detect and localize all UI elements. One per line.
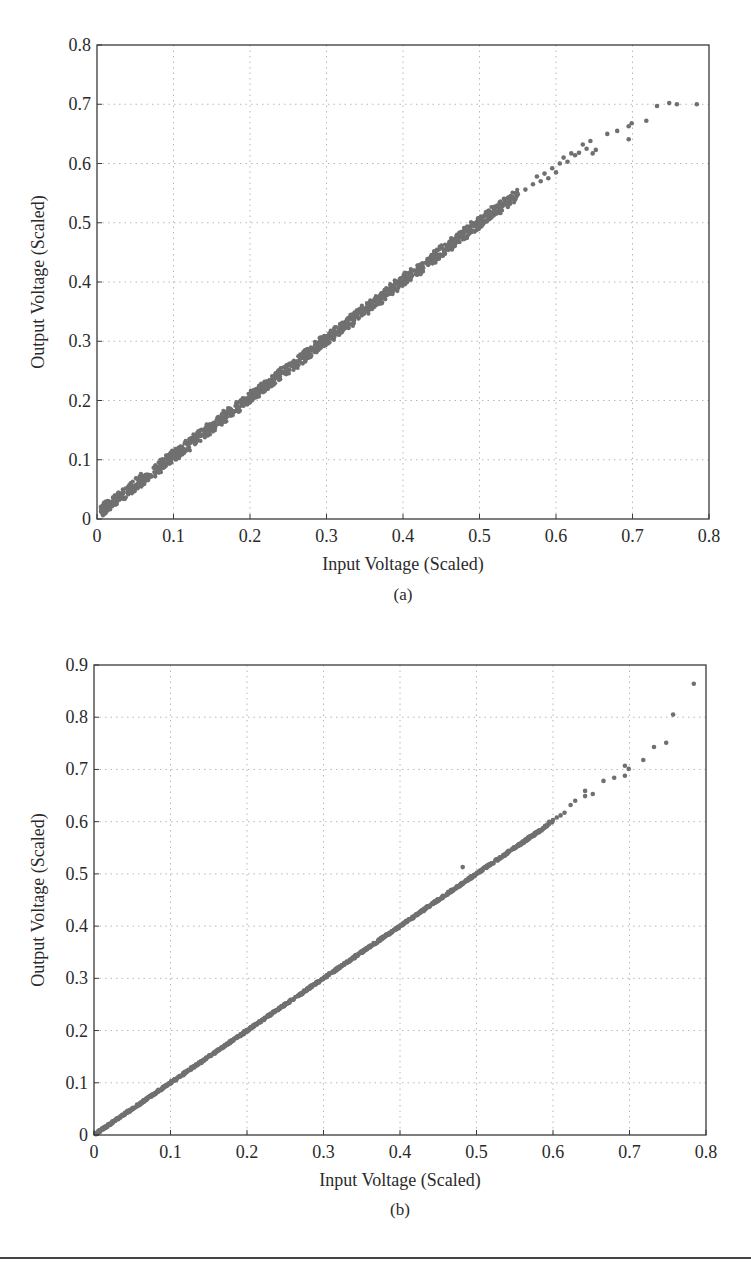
y-tick-label: 0 bbox=[79, 1125, 88, 1145]
data-point bbox=[366, 946, 370, 950]
data-point bbox=[318, 335, 322, 339]
data-point bbox=[309, 355, 313, 359]
x-tick-label: 0.3 bbox=[315, 526, 338, 546]
page-divider bbox=[0, 1257, 751, 1259]
data-point bbox=[285, 366, 289, 370]
data-point bbox=[266, 1015, 270, 1019]
data-point bbox=[210, 1053, 214, 1057]
data-point bbox=[172, 1078, 176, 1082]
data-point bbox=[198, 439, 202, 443]
data-point bbox=[251, 1023, 255, 1027]
data-point bbox=[398, 923, 402, 927]
data-point bbox=[102, 512, 106, 516]
data-point bbox=[538, 179, 543, 184]
y-tick-label: 0.7 bbox=[69, 94, 92, 114]
data-point bbox=[382, 935, 386, 939]
x-axis-label-b: Input Voltage (Scaled) bbox=[319, 1170, 480, 1191]
y-tick-label: 0.9 bbox=[66, 655, 89, 675]
data-point bbox=[583, 789, 588, 794]
data-point bbox=[484, 864, 488, 868]
data-point bbox=[561, 155, 566, 160]
data-point bbox=[142, 1098, 146, 1102]
data-point bbox=[583, 794, 588, 799]
data-point bbox=[187, 446, 191, 450]
data-point bbox=[581, 142, 586, 147]
data-point bbox=[480, 868, 484, 872]
data-point bbox=[432, 258, 436, 262]
x-tick-label: 0.7 bbox=[621, 526, 644, 546]
data-point bbox=[217, 422, 221, 426]
data-point bbox=[270, 383, 274, 387]
data-point bbox=[301, 349, 305, 353]
data-point bbox=[235, 404, 239, 408]
data-point bbox=[331, 970, 335, 974]
data-point bbox=[160, 457, 164, 461]
data-point bbox=[443, 894, 447, 898]
y-axis-label-b: Output Voltage (Scaled) bbox=[28, 813, 49, 986]
data-point bbox=[296, 354, 300, 358]
data-point bbox=[692, 682, 697, 687]
y-tick-label: 0.6 bbox=[69, 154, 92, 174]
data-point bbox=[116, 490, 120, 494]
data-point bbox=[591, 792, 596, 797]
data-point bbox=[629, 121, 634, 126]
data-point bbox=[623, 773, 628, 778]
scatter-chart-b: 00.10.20.30.40.50.60.70.8 00.10.20.30.40… bbox=[0, 620, 751, 1257]
data-point bbox=[167, 462, 171, 466]
data-point bbox=[196, 1062, 200, 1066]
data-point bbox=[257, 385, 261, 389]
x-tick-label: 0.8 bbox=[698, 526, 721, 546]
data-point bbox=[615, 129, 620, 134]
data-point bbox=[225, 409, 229, 413]
data-point bbox=[131, 479, 135, 483]
data-point bbox=[472, 874, 476, 878]
data-point bbox=[169, 451, 173, 455]
data-point bbox=[378, 300, 382, 304]
data-point bbox=[457, 231, 461, 235]
data-point bbox=[169, 458, 173, 462]
data-point bbox=[446, 890, 450, 894]
data-point bbox=[195, 434, 199, 438]
data-point bbox=[282, 371, 286, 375]
data-point bbox=[445, 244, 449, 248]
data-point bbox=[362, 309, 366, 313]
y-tick-label: 0.4 bbox=[66, 916, 89, 936]
data-point bbox=[425, 257, 429, 261]
data-point bbox=[319, 346, 323, 350]
data-point bbox=[125, 1109, 129, 1113]
data-point bbox=[554, 170, 559, 175]
data-point bbox=[159, 470, 163, 474]
x-tick-label: 0.3 bbox=[312, 1142, 335, 1162]
data-point bbox=[523, 187, 528, 192]
x-tick-label: 0.7 bbox=[618, 1142, 641, 1162]
data-point bbox=[399, 276, 403, 280]
data-point bbox=[546, 176, 551, 181]
figure-b: 00.10.20.30.40.50.60.70.8 00.10.20.30.40… bbox=[0, 620, 751, 1257]
data-point bbox=[438, 247, 442, 251]
data-point bbox=[524, 837, 528, 841]
data-point bbox=[220, 412, 224, 416]
data-point bbox=[506, 205, 510, 209]
x-tick-label: 0.4 bbox=[389, 1142, 412, 1162]
x-tick-label: 0.1 bbox=[162, 526, 185, 546]
data-point bbox=[116, 1117, 120, 1121]
data-point bbox=[219, 1045, 223, 1049]
data-point bbox=[558, 813, 563, 818]
data-point bbox=[341, 322, 345, 326]
y-tick-label: 0.3 bbox=[66, 968, 89, 988]
data-point bbox=[347, 323, 351, 327]
data-point bbox=[667, 101, 672, 106]
data-point bbox=[450, 242, 454, 246]
data-point bbox=[499, 200, 503, 204]
data-point bbox=[641, 758, 646, 763]
y-tick-label: 0.2 bbox=[66, 1021, 89, 1041]
data-point bbox=[107, 507, 111, 511]
data-point bbox=[213, 422, 217, 426]
data-point bbox=[652, 745, 657, 750]
data-point bbox=[350, 956, 354, 960]
data-point bbox=[510, 847, 514, 851]
data-point bbox=[594, 148, 599, 153]
data-point bbox=[329, 330, 333, 334]
data-point bbox=[457, 240, 461, 244]
x-tick-label: 0.5 bbox=[468, 526, 491, 546]
